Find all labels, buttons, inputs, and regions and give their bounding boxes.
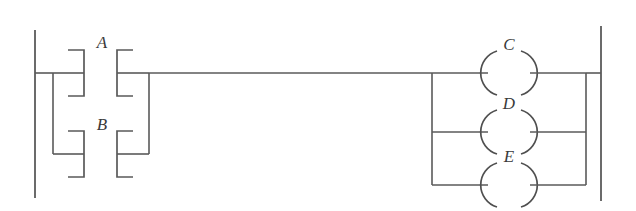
contact-b-label: B [97,115,108,134]
coil-c-label: C [503,35,515,54]
contact-a-label: A [96,33,108,52]
ladder-diagram: A B C D E [0,0,636,211]
ladder-logic-canvas: A B C D E [0,0,636,211]
coil-d-label: D [502,94,516,113]
coil-e-label: E [503,147,515,166]
